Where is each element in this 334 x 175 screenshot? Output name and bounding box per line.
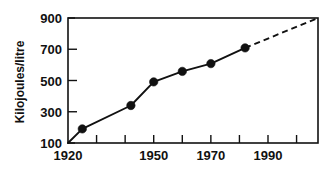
data-point-1950 [150, 78, 158, 86]
y-tick-label-900: 900 [40, 11, 62, 26]
data-point-1942 [127, 101, 135, 109]
x-tick-label-1950: 1950 [139, 148, 168, 163]
data-line-measured [68, 48, 245, 143]
y-axis-ticks [68, 18, 77, 143]
data-point-1960 [178, 67, 186, 75]
x-tick-label-1990: 1990 [254, 148, 283, 163]
data-point-1970 [207, 59, 215, 67]
x-tick-label-1970: 1970 [196, 148, 225, 163]
plot-frame [68, 18, 318, 143]
x-axis-ticks [97, 135, 297, 143]
data-point-1925 [78, 125, 86, 133]
line-chart: 900 700 500 300 100 1920 1950 1970 1990 … [0, 0, 334, 175]
y-tick-label-300: 300 [40, 105, 62, 120]
x-tick-label-1920: 1920 [54, 148, 83, 163]
data-point-1982 [241, 44, 249, 52]
y-tick-label-700: 700 [40, 42, 62, 57]
chart-container: 900 700 500 300 100 1920 1950 1970 1990 … [0, 0, 334, 175]
y-tick-label-500: 500 [40, 74, 62, 89]
data-line-projected [245, 18, 318, 48]
y-axis-title: Kilojoules/litre [13, 40, 27, 123]
